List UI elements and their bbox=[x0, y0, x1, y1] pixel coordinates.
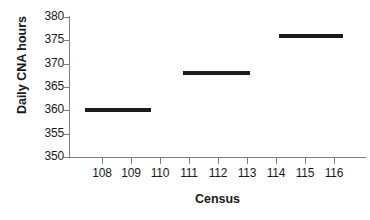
x-tick-mark bbox=[160, 158, 161, 164]
x-tick-mark bbox=[334, 158, 335, 164]
chart-figure: Daily CNA hours Census 35035536036537037… bbox=[0, 0, 370, 220]
y-tick-label: 380 bbox=[30, 9, 64, 23]
x-tick-mark bbox=[218, 158, 219, 164]
y-tick-label: 355 bbox=[30, 126, 64, 140]
y-tick-label: 375 bbox=[30, 32, 64, 46]
x-tick-mark bbox=[189, 158, 190, 164]
x-axis-line bbox=[69, 157, 366, 158]
x-tick-label: 116 bbox=[314, 166, 354, 180]
y-axis-line bbox=[69, 16, 70, 158]
x-tick-mark bbox=[247, 158, 248, 164]
x-tick-mark bbox=[305, 158, 306, 164]
x-axis-title: Census bbox=[69, 192, 366, 206]
y-axis-tick-labels: 350355360365370375380 bbox=[24, 0, 64, 180]
data-segment bbox=[85, 108, 152, 112]
y-tick-label: 370 bbox=[30, 56, 64, 70]
y-tick-label: 350 bbox=[30, 149, 64, 163]
data-segment bbox=[279, 34, 343, 38]
data-segment bbox=[183, 71, 250, 75]
y-tick-label: 365 bbox=[30, 79, 64, 93]
x-tick-mark bbox=[102, 158, 103, 164]
x-tick-mark bbox=[276, 158, 277, 164]
y-tick-label: 360 bbox=[30, 102, 64, 116]
x-tick-mark bbox=[131, 158, 132, 164]
